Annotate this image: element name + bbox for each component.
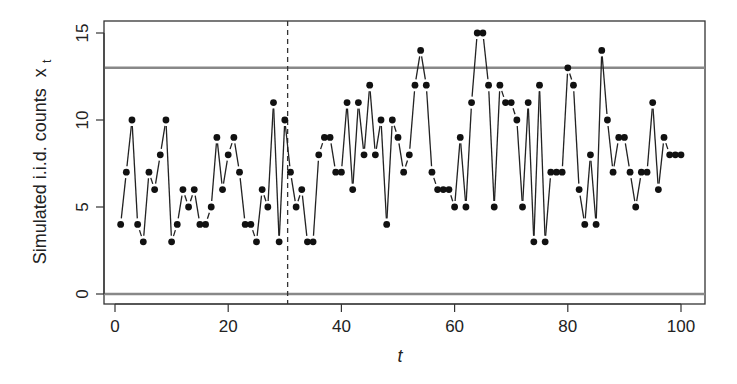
data-point: [276, 238, 283, 245]
data-point: [457, 134, 464, 141]
data-point: [185, 204, 192, 211]
data-point: [678, 151, 685, 158]
series-segment: [224, 161, 228, 184]
series-segment: [291, 178, 295, 201]
data-point: [146, 169, 153, 176]
data-point: [400, 169, 407, 176]
data-point: [140, 238, 147, 245]
series-segment: [523, 109, 528, 201]
data-point: [508, 99, 515, 106]
x-tick-label: 40: [332, 317, 351, 336]
series-segment: [406, 161, 408, 167]
data-point: [525, 99, 532, 106]
data-point: [463, 204, 470, 211]
series-segment: [342, 109, 347, 167]
data-point: [264, 204, 271, 211]
series-segment: [528, 109, 533, 236]
data-point: [480, 30, 487, 37]
series-segment: [365, 91, 370, 149]
data-point: [123, 169, 130, 176]
data-point: [349, 186, 356, 193]
data-point: [485, 82, 492, 89]
data-point: [355, 99, 362, 106]
series-segment: [178, 196, 182, 219]
data-point: [213, 134, 220, 141]
series-segment: [230, 143, 232, 149]
series-segment: [540, 91, 545, 236]
series-segment: [410, 91, 415, 149]
data-point: [598, 47, 605, 54]
series-segment: [455, 143, 460, 201]
data-point: [344, 99, 351, 106]
data-point: [423, 82, 430, 89]
series-segment: [127, 126, 131, 166]
series-segment: [625, 143, 629, 166]
series-segment: [570, 74, 572, 80]
series-segment: [489, 91, 494, 201]
series-segment: [161, 126, 165, 149]
series-segment: [513, 108, 515, 114]
data-point: [587, 151, 594, 158]
series-segment: [207, 213, 209, 219]
series-segment: [434, 178, 436, 184]
series-segment: [151, 178, 153, 184]
time-series-chart: 020406080100 051015 t Simulated i.i.d. c…: [0, 0, 737, 384]
data-point: [253, 238, 260, 245]
data-point: [270, 99, 277, 106]
series-segment: [451, 195, 453, 201]
data-point: [559, 169, 566, 176]
series-segment: [156, 161, 160, 184]
y-axis-title: Simulated i.i.d. counts x t: [30, 59, 54, 264]
series-segment: [399, 143, 403, 166]
data-point: [406, 151, 413, 158]
series-segment: [517, 126, 522, 201]
y-axis: 051015: [73, 24, 104, 299]
series-segment: [321, 143, 323, 149]
series-segment: [274, 109, 279, 236]
series-segment: [313, 161, 318, 236]
data-point: [632, 204, 639, 211]
data-point: [372, 151, 379, 158]
x-axis-title: t: [397, 346, 403, 366]
data-point: [661, 134, 668, 141]
series-segment: [394, 126, 396, 132]
data-point: [293, 204, 300, 211]
series-segment: [580, 196, 584, 219]
data-point: [570, 82, 577, 89]
data-point: [627, 169, 634, 176]
data-point: [191, 186, 198, 193]
data-point: [542, 238, 549, 245]
data-point: [163, 117, 170, 124]
data-point: [649, 99, 656, 106]
series-segment: [484, 39, 488, 79]
series-segment: [144, 178, 149, 236]
y-axis-title-sub: t: [40, 59, 54, 63]
data-point: [208, 204, 215, 211]
series-segment: [240, 178, 244, 218]
data-point: [225, 151, 232, 158]
series-segment: [637, 178, 641, 201]
data-point: [644, 169, 651, 176]
series-segment: [298, 195, 300, 201]
data-point: [604, 117, 611, 124]
data-point: [219, 186, 226, 193]
data-point: [446, 186, 453, 193]
series-segment: [648, 109, 653, 167]
data-point: [151, 186, 158, 193]
series-segment: [139, 230, 141, 236]
x-tick-label: 100: [667, 317, 695, 336]
data-point: [338, 169, 345, 176]
series-segment: [381, 126, 386, 218]
series-segment: [546, 178, 551, 236]
y-tick-label: 5: [73, 202, 92, 211]
data-point: [281, 117, 288, 124]
series-segment: [585, 161, 590, 219]
series-segment: [653, 109, 658, 184]
y-tick-label: 10: [73, 111, 92, 130]
series-segment: [347, 109, 352, 184]
data-point: [412, 82, 419, 89]
data-point: [395, 134, 402, 141]
data-point: [129, 117, 136, 124]
data-point: [236, 169, 243, 176]
series-segment: [257, 196, 261, 236]
